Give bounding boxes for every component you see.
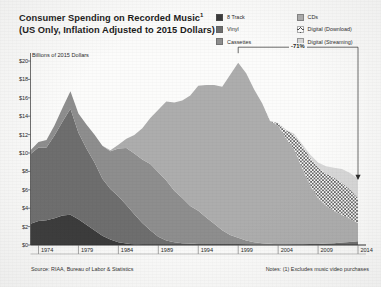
x-tick-label: 1989 <box>161 247 173 253</box>
x-axis-tick-labels: 197419791984198919941999200420092014 <box>0 0 381 287</box>
x-tick-label: 2004 <box>281 247 293 253</box>
x-tick-label: 1979 <box>81 247 93 253</box>
x-tick-label: 1984 <box>121 247 133 253</box>
source-note: Source: RIAA, Bureau of Labor & Statisti… <box>31 266 133 272</box>
plot-area: $0$2$4$6$8$10$12$14$16$18$20 19741979198… <box>0 0 381 287</box>
footnote-note: Notes: (1) Excludes music video purchase… <box>266 266 369 272</box>
chart-page: Consumer Spending on Recorded Music1 (US… <box>0 0 381 287</box>
x-tick-label: 2014 <box>361 247 373 253</box>
y-axis-label: Billions of 2015 Dollars <box>32 52 89 58</box>
x-tick-label: 1994 <box>201 247 213 253</box>
x-tick-label: 1999 <box>241 247 253 253</box>
percent-change-annotation: -71% <box>289 43 307 49</box>
x-tick-label: 2009 <box>321 247 333 253</box>
x-tick-label: 1974 <box>41 247 53 253</box>
